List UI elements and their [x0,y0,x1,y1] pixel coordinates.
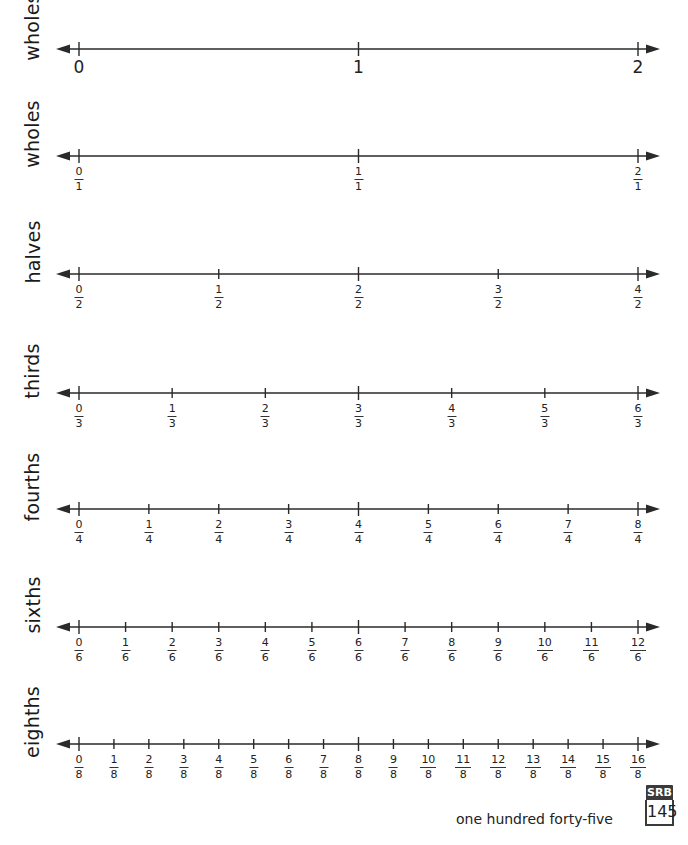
numerator: 7 [564,519,573,533]
left-arrow-icon [56,152,70,161]
page-number-words: one hundred forty-five [456,811,613,827]
numerator: 3 [494,284,503,298]
fraction-label: 66 [354,637,363,664]
fraction-label: 138 [525,754,541,781]
denominator: 6 [588,651,595,664]
numerator: 0 [75,519,84,533]
numerator: 5 [424,519,433,533]
numerator: 2 [261,403,270,417]
fraction-label: 43 [447,403,456,430]
left-arrow-icon [56,389,70,398]
denominator: 2 [495,298,502,311]
fraction-label: 54 [424,519,433,546]
denominator: 6 [262,651,269,664]
numerator: 2 [168,637,177,651]
tick-label: 1 [353,57,364,77]
denominator: 3 [169,417,176,430]
numerator: 0 [75,403,84,417]
numerator: 4 [214,754,223,768]
left-arrow-icon [56,740,70,749]
numerator: 3 [214,637,223,651]
denominator: 4 [425,533,432,546]
denominator: 8 [565,768,572,781]
denominator: 2 [215,298,222,311]
fraction-label: 02 [75,284,84,311]
numerator: 5 [307,637,316,651]
fraction-label: 78 [319,754,328,781]
numerator: 8 [354,754,363,768]
numerator: 2 [354,284,363,298]
numerator: 11 [583,637,599,651]
fraction-label: 158 [595,754,611,781]
numerator: 10 [420,754,436,768]
denominator: 3 [262,417,269,430]
denominator: 6 [355,651,362,664]
denominator: 2 [355,298,362,311]
fraction-label: 46 [261,637,270,664]
fraction-label: 56 [307,637,316,664]
denominator: 8 [600,768,607,781]
right-arrow-icon [646,740,660,749]
numerator: 3 [354,403,363,417]
denominator: 4 [565,533,572,546]
denominator: 3 [635,417,642,430]
denominator: 8 [76,768,83,781]
denominator: 6 [122,651,129,664]
denominator: 6 [215,651,222,664]
number-line-thirds: thirds03132333435363 [0,348,688,448]
denominator: 8 [145,768,152,781]
fraction-label: 01 [75,166,84,193]
fraction-label: 16 [121,637,130,664]
numerator: 4 [447,403,456,417]
right-arrow-icon [646,505,660,514]
fraction-label: 108 [420,754,436,781]
numerator: 1 [144,519,153,533]
fraction-label: 36 [214,637,223,664]
fraction-label: 06 [75,637,84,664]
numerator: 0 [75,754,84,768]
numerator: 1 [214,284,223,298]
numerator: 8 [447,637,456,651]
fraction-label: 11 [354,166,363,193]
fraction-label: 22 [354,284,363,311]
denominator: 2 [76,298,83,311]
numerator: 2 [214,519,223,533]
axis-line [0,582,688,682]
tick-label: 0 [74,57,85,77]
denominator: 6 [76,651,83,664]
denominator: 8 [390,768,397,781]
denominator: 4 [355,533,362,546]
fraction-label: 38 [179,754,188,781]
right-arrow-icon [646,152,660,161]
numerator: 12 [630,637,646,651]
denominator: 6 [448,651,455,664]
axis-line [0,111,688,211]
numerator: 9 [389,754,398,768]
fraction-label: 32 [494,284,503,311]
fraction-label: 18 [109,754,118,781]
numerator: 11 [455,754,471,768]
denominator: 3 [355,417,362,430]
denominator: 3 [76,417,83,430]
numerator: 6 [634,403,643,417]
left-arrow-icon [56,45,70,54]
number-line-wholes: wholes011121 [0,111,688,211]
numerator: 3 [179,754,188,768]
fraction-label: 26 [168,637,177,664]
denominator: 8 [355,768,362,781]
number-line-sixths: sixths06162636465666768696106116126 [0,582,688,682]
numerator: 9 [494,637,503,651]
fraction-label: 21 [634,166,643,193]
numerator: 16 [630,754,646,768]
srb-badge: SRB 145 [646,785,673,826]
axis-line [0,464,688,564]
denominator: 3 [541,417,548,430]
denominator: 6 [541,651,548,664]
numerator: 15 [595,754,611,768]
fraction-label: 42 [634,284,643,311]
numerator: 2 [144,754,153,768]
denominator: 6 [635,651,642,664]
numerator: 4 [354,519,363,533]
srb-badge-label: SRB [646,785,673,800]
numerator: 0 [75,166,84,180]
